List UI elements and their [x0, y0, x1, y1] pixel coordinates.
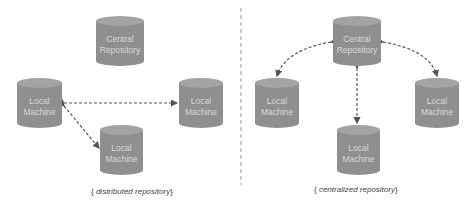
left-local-machine-right: Local Machine: [179, 78, 223, 128]
right-central-repository: Central Repository: [333, 16, 381, 66]
node-label: Local Machine: [17, 92, 62, 122]
left-caption: { distributed repository}: [91, 187, 173, 196]
left-central-repository: Central Repository: [96, 16, 144, 66]
arrow-central-to-local-right: [383, 42, 437, 76]
node-label: Local Machine: [100, 139, 143, 169]
node-label: Local Machine: [179, 92, 223, 122]
node-label: Central Repository: [96, 30, 144, 60]
arrow-central-to-local-left: [277, 42, 331, 76]
node-label: Central Repository: [333, 30, 381, 60]
node-label: Local Machine: [337, 139, 380, 169]
right-local-machine-right: Local Machine: [415, 78, 459, 128]
arrow-local-left-to-local-bottom: [64, 106, 99, 148]
connector-layer: [0, 0, 474, 210]
node-label: Local Machine: [255, 92, 299, 122]
right-local-machine-left: Local Machine: [255, 78, 299, 128]
right-local-machine-bottom: Local Machine: [337, 125, 380, 175]
left-local-machine-left: Local Machine: [17, 78, 62, 128]
node-label: Local Machine: [415, 92, 459, 122]
left-local-machine-bottom: Local Machine: [100, 125, 143, 175]
right-caption: { centralized repository}: [314, 185, 398, 194]
